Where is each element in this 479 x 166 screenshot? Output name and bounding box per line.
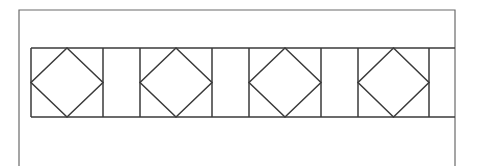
outer-frame [19,10,455,166]
inscribed-diamond [358,48,429,117]
frame-outline [19,10,455,166]
inscribed-diamond [31,48,103,117]
inscribed-diamond [140,48,212,117]
border-pattern-diagram [0,0,479,166]
pattern-band [31,48,455,117]
inscribed-diamond [249,48,321,117]
